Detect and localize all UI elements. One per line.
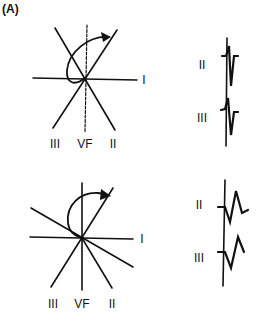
top-label-II: II: [110, 137, 117, 151]
bottom-hexaxial: [30, 183, 133, 290]
top-label-III: III: [50, 137, 60, 151]
top-ecg-lead-III: III: [197, 111, 207, 125]
bottom-ecg-strip: [218, 180, 248, 286]
bottom-label-III: III: [48, 297, 58, 311]
bottom-label-II: II: [109, 297, 116, 311]
bottom-label-I: I: [140, 232, 143, 246]
hexaxial-diagrams: [0, 0, 256, 329]
bottom-ecg-lead-II: II: [196, 198, 203, 212]
top-ecg-strip: [221, 38, 238, 146]
bottom-ecg-lead-III: III: [194, 251, 204, 265]
top-hexaxial: [33, 25, 137, 132]
bottom-label-VF: VF: [74, 297, 89, 311]
top-label-I: I: [142, 73, 145, 87]
top-label-VF: VF: [77, 137, 92, 151]
top-ecg-lead-II: II: [199, 58, 206, 72]
